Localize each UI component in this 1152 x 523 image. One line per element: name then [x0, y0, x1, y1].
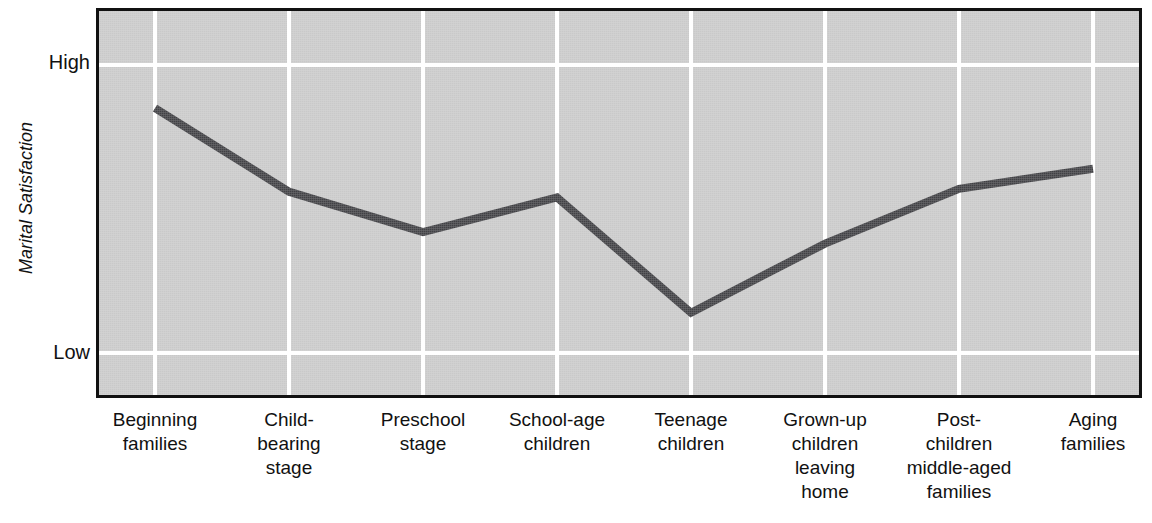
x-tick-label-line: families [884, 480, 1034, 504]
x-tick-label-line: leaving [750, 456, 900, 480]
x-axis-labels: BeginningfamiliesChild-bearingstagePresc… [0, 408, 1152, 523]
x-tick-label-3: School-agechildren [482, 408, 632, 456]
x-tick-label-line: bearing [214, 432, 364, 456]
y-tick-label-high: High [0, 51, 90, 74]
x-tick-label-6: Post-childrenmiddle-agedfamilies [884, 408, 1034, 504]
marital-satisfaction-line [155, 108, 1093, 313]
x-tick-label-line: Grown-up [750, 408, 900, 432]
x-tick-label-0: Beginningfamilies [80, 408, 230, 456]
x-tick-label-line: families [80, 432, 230, 456]
horizontal-gridlines [99, 65, 1139, 353]
x-tick-label-line: stage [348, 432, 498, 456]
x-tick-label-line: families [1018, 432, 1152, 456]
x-tick-label-line: children [616, 432, 766, 456]
x-tick-label-line: Post- [884, 408, 1034, 432]
y-tick-label-low: Low [0, 341, 90, 364]
x-tick-label-line: Teenage [616, 408, 766, 432]
x-tick-label-5: Grown-upchildrenleavinghome [750, 408, 900, 504]
vertical-gridlines [155, 11, 1093, 395]
x-tick-label-line: children [884, 432, 1034, 456]
x-tick-label-line: Aging [1018, 408, 1152, 432]
x-tick-label-line: Child- [214, 408, 364, 432]
x-tick-label-line: middle-aged [884, 456, 1034, 480]
x-tick-label-7: Agingfamilies [1018, 408, 1152, 456]
plot-area [96, 8, 1142, 398]
x-tick-label-line: children [750, 432, 900, 456]
x-tick-label-line: stage [214, 456, 364, 480]
x-tick-label-line: School-age [482, 408, 632, 432]
x-tick-label-line: Beginning [80, 408, 230, 432]
x-tick-label-1: Child-bearingstage [214, 408, 364, 480]
chart-canvas [99, 11, 1139, 395]
chart-figure: Marital Satisfaction High Low Beginningf… [0, 0, 1152, 523]
x-tick-label-2: Preschoolstage [348, 408, 498, 456]
x-tick-label-4: Teenagechildren [616, 408, 766, 456]
x-tick-label-line: Preschool [348, 408, 498, 432]
x-tick-label-line: children [482, 432, 632, 456]
x-tick-label-line: home [750, 480, 900, 504]
y-axis-title: Marital Satisfaction [14, 88, 38, 308]
